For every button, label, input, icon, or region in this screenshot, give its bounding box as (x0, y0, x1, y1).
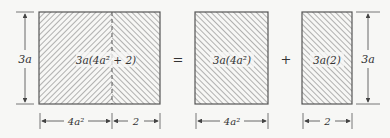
height-label: 3a (18, 53, 32, 66)
middle-width-dimension: 4a² (196, 113, 268, 129)
left-height-dimension: 3a (13, 12, 37, 104)
width-label-4a2: 4a² (67, 116, 84, 127)
area-label-3a-2: 3a(2) (313, 54, 341, 66)
right-width-dimension: 2 (303, 113, 352, 129)
equals-sign: = (173, 52, 184, 67)
rectangle-3a-4a2: 3a(4a²) (195, 12, 268, 104)
left-width-dimensions: 4a² 2 (40, 113, 160, 129)
width-label-2: 2 (132, 116, 139, 127)
area-label-3a-4a2: 3a(4a²) (213, 54, 251, 66)
combined-rectangle: 3a(4a² + 2) (39, 12, 160, 104)
plus-sign: + (281, 52, 292, 67)
distributive-area-diagram: 3a(4a² + 2) 3a 4a² 2 = 3a(4a²) 4a² + (0, 0, 390, 138)
width-label-4a2-middle: 4a² (223, 116, 240, 127)
height-label-right: 3a (361, 53, 375, 66)
combined-area-label: 3a(4a² + 2) (76, 54, 136, 66)
right-height-dimension: 3a (356, 12, 380, 104)
width-label-2-right: 2 (323, 116, 330, 127)
rectangle-3a-2: 3a(2) (302, 12, 352, 104)
